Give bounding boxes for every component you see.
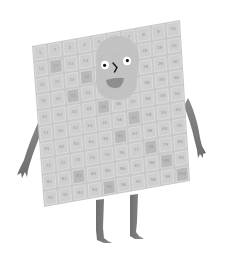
grid-cell-number: 90 [179,155,185,160]
grid-cell-number: 23 [69,77,75,82]
grid-cell-number: 2 [53,47,56,52]
grid-cell-number: 48 [145,96,151,101]
grid-cell-number: 56 [117,117,123,122]
grid-cell-number: 5 [98,39,101,44]
grid-cell-number: 89 [164,158,170,163]
grid-cell-number: 64 [88,139,94,144]
grid-cell-number: 4 [83,42,86,47]
grid-cell-number: 54 [87,123,93,128]
grid-cell-number: 76 [119,150,125,155]
grid-cell-number: 100 [178,171,186,176]
grid-cell-number: 74 [90,155,96,160]
grid-cell-number: 12 [53,63,59,68]
grid-cell-number: 11 [39,66,45,71]
grid-cell-number: 19 [157,45,163,50]
grid-cell-number: 53 [73,125,79,130]
grid-cell-number: 58 [146,112,152,117]
grid-cell-number: 8 [142,32,145,37]
right-leg [130,194,144,239]
grid-cell-number: 86 [120,166,126,171]
grid-cell-number: 65 [103,136,109,141]
grid-cell-number: 24 [84,74,90,79]
grid-cell-number: 44 [86,106,92,111]
grid-cell-number: 77 [134,147,140,152]
left-eye [101,61,109,69]
grid-cell-number: 38 [144,80,150,85]
grid-cell-number: 67 [132,131,138,136]
hundred-square-character: 1234567891011121314151617181920212223242… [0,0,225,259]
grid-cell-number: 87 [135,163,141,168]
grid-cell-number: 31 [41,98,47,103]
grid-cell-number: 82 [61,176,67,181]
grid-cell-number: 20 [171,43,177,48]
grid-cell-number: 83 [76,173,82,178]
grid-cell-number: 21 [40,82,46,87]
grid-cell-number: 69 [162,126,168,131]
grid-cell-number: 50 [174,91,180,96]
grid-cell-number: 55 [102,120,108,125]
grid-cell-number: 59 [161,110,167,115]
grid-cell-number: 40 [173,75,179,80]
grid-cell-number: 63 [74,141,80,146]
face [96,36,139,100]
grid-cell-number: 80 [178,139,184,144]
grid-cell-number: 71 [46,163,52,168]
grid-cell-number: 81 [47,179,53,184]
grid-cell-number: 13 [68,61,74,66]
grid-cell-number: 39 [159,77,165,82]
grid-cell-number: 42 [57,112,63,117]
grid-cell-number: 66 [118,133,124,138]
grid-cell-number: 43 [72,109,78,114]
grid-cell-number: 60 [175,107,181,112]
grid-cell-number: 46 [116,101,122,106]
grid-cell-number: 75 [104,152,110,157]
grid-cell-number: 30 [172,59,178,64]
grid-cell-number: 33 [70,93,76,98]
grid-cell-number: 94 [92,187,98,192]
grid-cell-number: 99 [165,174,171,179]
grid-cell-number: 92 [63,192,69,197]
grid-cell-number: 34 [85,90,91,95]
grid-cell-number: 3 [68,45,71,50]
grid-cell-number: 88 [149,160,155,165]
grid-cell-number: 73 [75,157,81,162]
grid-cell-number: 79 [163,142,169,147]
grid-cell-number: 18 [142,48,148,53]
grid-cell-number: 29 [158,61,164,66]
grid-cell-number: 70 [176,123,182,128]
grid-cell-number: 9 [157,29,160,34]
grid-cell-number: 98 [150,177,156,182]
grid-cell-number: 95 [106,184,112,189]
grid-cell-number: 41 [42,114,48,119]
grid-cell-number: 52 [58,128,64,133]
grid-cell-number: 57 [131,115,137,120]
grid-cell-number: 96 [121,182,127,187]
grid-cell-number: 1 [39,50,42,55]
right-eye [123,57,131,65]
grid-cell-number: 78 [148,144,154,149]
grid-cell-number: 84 [91,171,97,176]
grid-cell-number: 72 [60,160,66,165]
grid-cell-number: 61 [44,146,50,151]
grid-cell-number: 93 [77,190,83,195]
grid-cell-number: 97 [136,179,142,184]
grid-cell-number: 14 [83,58,89,63]
left-leg [96,199,112,243]
grid-cell-number: 91 [48,195,54,200]
grid-cell-number: 22 [54,79,60,84]
grid-cell-number: 49 [160,93,166,98]
grid-cell-number: 10 [170,26,176,31]
grid-cell-number: 28 [143,64,149,69]
grid-cell-number: 32 [56,96,62,101]
grid-cell-number: 51 [43,130,49,135]
grid-cell-number: 47 [130,99,136,104]
grid-cell-number: 45 [101,104,107,109]
grid-cell-number: 85 [105,168,111,173]
grid-cell-number: 68 [147,128,153,133]
grid-cell-number: 62 [59,144,65,149]
